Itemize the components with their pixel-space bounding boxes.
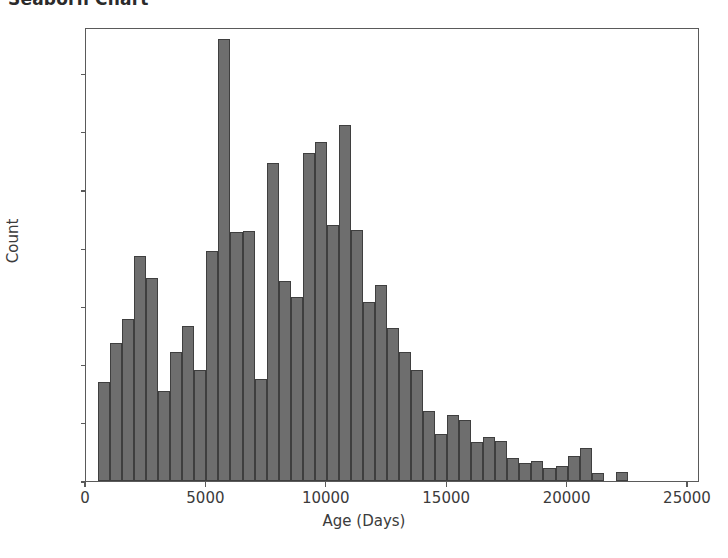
histogram-bar bbox=[206, 251, 218, 481]
x-tick-mark bbox=[686, 482, 687, 487]
histogram-bar bbox=[110, 343, 122, 481]
histogram-bar bbox=[399, 352, 411, 481]
histogram-bar bbox=[158, 391, 170, 481]
histogram-bar bbox=[327, 225, 339, 481]
x-tick-mark bbox=[446, 482, 447, 487]
histogram-bar bbox=[531, 461, 543, 481]
histogram-bar bbox=[592, 473, 604, 481]
x-tick-label: 0 bbox=[80, 489, 90, 507]
histogram-bar bbox=[122, 319, 134, 481]
histogram-bar bbox=[387, 328, 399, 481]
histogram-bar bbox=[543, 468, 555, 481]
histogram-bar bbox=[339, 125, 351, 481]
histogram-bar bbox=[170, 352, 182, 481]
histogram-bar bbox=[279, 281, 291, 481]
histogram-bar bbox=[243, 231, 255, 481]
histogram-bar bbox=[568, 456, 580, 481]
histogram-bar bbox=[98, 382, 110, 481]
page-title: Seaborn Chart bbox=[8, 0, 149, 9]
histogram-bar bbox=[230, 232, 242, 481]
histogram-bar bbox=[556, 466, 568, 481]
x-tick-label: 25000 bbox=[663, 489, 711, 507]
x-tick-mark bbox=[84, 482, 85, 487]
histogram-bar bbox=[423, 411, 435, 481]
histogram-bar bbox=[471, 442, 483, 481]
histogram-bar bbox=[351, 230, 363, 481]
y-tick-mark bbox=[81, 423, 85, 424]
x-tick-label: 20000 bbox=[543, 489, 591, 507]
histogram-bar bbox=[146, 278, 158, 481]
x-tick-mark bbox=[325, 482, 326, 487]
histogram-bar bbox=[447, 415, 459, 481]
histogram-bar bbox=[194, 370, 206, 481]
histogram-bar bbox=[255, 379, 267, 481]
histogram-bar bbox=[134, 256, 146, 481]
histogram-bar bbox=[363, 302, 375, 481]
y-tick-mark bbox=[81, 249, 85, 250]
histogram-bar bbox=[303, 153, 315, 481]
y-tick-mark bbox=[81, 132, 85, 133]
y-tick-mark bbox=[81, 190, 85, 191]
histogram-bar bbox=[616, 472, 628, 481]
histogram-bar bbox=[507, 458, 519, 481]
histogram-bar bbox=[435, 434, 447, 481]
histogram-bar bbox=[519, 463, 531, 481]
x-tick-mark bbox=[566, 482, 567, 487]
histogram-bar bbox=[483, 437, 495, 481]
histogram-bar bbox=[315, 142, 327, 481]
histogram-plot-area bbox=[86, 29, 698, 481]
seaborn-chart-figure: Seaborn Chart Count Age (Days) 010020030… bbox=[0, 0, 728, 558]
histogram-bar bbox=[218, 39, 230, 481]
histogram-bar bbox=[182, 326, 194, 481]
x-axis-label: Age (Days) bbox=[0, 512, 728, 530]
x-tick-mark bbox=[205, 482, 206, 487]
plot-frame bbox=[85, 28, 699, 482]
y-axis-label: Count bbox=[4, 219, 22, 264]
x-tick-label: 15000 bbox=[422, 489, 470, 507]
y-tick-mark bbox=[81, 365, 85, 366]
histogram-bar bbox=[411, 370, 423, 481]
x-tick-label: 10000 bbox=[302, 489, 350, 507]
histogram-bar bbox=[291, 297, 303, 482]
x-tick-label: 5000 bbox=[186, 489, 224, 507]
histogram-bar bbox=[580, 448, 592, 481]
y-tick-mark bbox=[81, 74, 85, 75]
y-tick-mark bbox=[81, 307, 85, 308]
histogram-bar bbox=[267, 163, 279, 481]
histogram-bar bbox=[495, 441, 507, 481]
histogram-bar bbox=[459, 420, 471, 481]
histogram-bar bbox=[375, 285, 387, 481]
